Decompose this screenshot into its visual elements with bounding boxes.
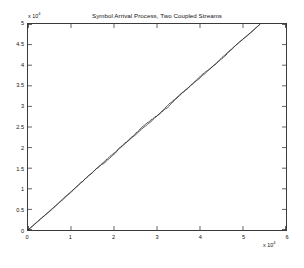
y-axis-tick-label: 2.5 bbox=[16, 124, 24, 130]
y-axis-tick-labels: 00.511.522.533.544.55 bbox=[0, 23, 24, 231]
y-axis-tick-label: 4.5 bbox=[16, 41, 24, 47]
y-axis-tick-label: 3 bbox=[21, 103, 24, 109]
x-axis-tick-label: 5 bbox=[238, 234, 250, 240]
y-axis-tick-label: 1.5 bbox=[16, 166, 24, 172]
chart-title: Symbol Arrival Process, Two Coupled Stre… bbox=[27, 12, 287, 20]
y-axis-tick-label: 5 bbox=[21, 20, 24, 26]
y-axis-tick-label: 0.5 bbox=[16, 207, 24, 213]
x-axis-tick-label: 4 bbox=[194, 234, 206, 240]
x-axis-tick-label: 2 bbox=[108, 234, 120, 240]
y-axis-multiplier-prefix: x 10 bbox=[28, 13, 38, 19]
plot-svg bbox=[28, 24, 286, 230]
y-axis-tick-label: 1 bbox=[21, 186, 24, 192]
y-axis-tick-label: 3.5 bbox=[16, 82, 24, 88]
x-axis-tick-label: 0 bbox=[21, 234, 33, 240]
y-axis-tick-label: 2 bbox=[21, 145, 24, 151]
x-axis-tick-labels: 0123456 bbox=[27, 234, 287, 244]
figure-canvas: Symbol Arrival Process, Two Coupled Stre… bbox=[0, 0, 304, 268]
y-axis-multiplier-label: x 104 bbox=[28, 13, 40, 19]
y-axis-tick-label: 4 bbox=[21, 62, 24, 68]
x-axis-tick-label: 1 bbox=[64, 234, 76, 240]
x-axis-tick-label: 3 bbox=[151, 234, 163, 240]
plot-area bbox=[27, 23, 287, 231]
y-axis-multiplier-exponent: 4 bbox=[38, 11, 40, 16]
x-axis-tick-label: 6 bbox=[281, 234, 293, 240]
